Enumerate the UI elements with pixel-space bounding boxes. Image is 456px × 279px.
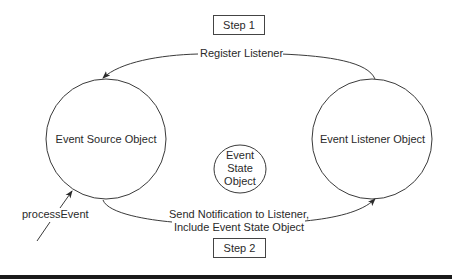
- process-event-arrow-upper: [60, 191, 72, 208]
- event-listener-label: Event Listener Object: [312, 133, 433, 146]
- send-notification-label: Send Notification to Listener, Include E…: [166, 208, 312, 234]
- send-notification-line-2: Include Event State Object: [166, 221, 312, 234]
- event-state-line-2: State: [214, 162, 266, 175]
- register-listener-label: Register Listener: [200, 47, 283, 60]
- process-event-label: processEvent: [22, 208, 89, 221]
- notify-arrow-left-segment: [103, 200, 172, 222]
- event-source-label: Event Source Object: [46, 133, 166, 146]
- register-arrow-left-segment: [103, 54, 198, 78]
- process-event-arrow-lower: [37, 222, 50, 241]
- step-1-label: Step 1: [223, 19, 255, 31]
- step-2-label: Step 2: [224, 242, 256, 254]
- event-model-diagram: Step 1 Step 2 Event Source Object Event …: [0, 0, 456, 279]
- step-1-box: Step 1: [213, 15, 265, 35]
- event-state-line-1: Event: [214, 149, 266, 162]
- send-notification-line-1: Send Notification to Listener,: [166, 208, 312, 221]
- event-state-label: Event State Object: [214, 149, 266, 188]
- register-arrow-right-segment: [281, 54, 375, 79]
- bottom-rule: [0, 275, 452, 279]
- step-2-box: Step 2: [213, 238, 266, 258]
- event-state-line-3: Object: [214, 175, 266, 188]
- notify-arrow-right-segment: [305, 199, 375, 221]
